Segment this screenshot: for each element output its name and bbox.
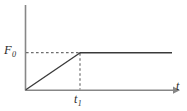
y-axis-level-subscript: 0 [12, 50, 16, 59]
force-time-graph-figure: F0 t1 t [0, 0, 187, 111]
curve-ramp-segment [26, 53, 80, 90]
x-axis-name-label: t [176, 80, 179, 92]
x-axis-tick-subscript: 1 [78, 99, 82, 108]
y-axis-level-label-F0: F0 [4, 44, 16, 57]
x-axis-tick-label-t1: t1 [74, 93, 81, 105]
plot-area [0, 0, 187, 111]
y-axis-level-symbol: F [4, 43, 12, 57]
x-axis-tick-symbol: t [74, 92, 77, 106]
